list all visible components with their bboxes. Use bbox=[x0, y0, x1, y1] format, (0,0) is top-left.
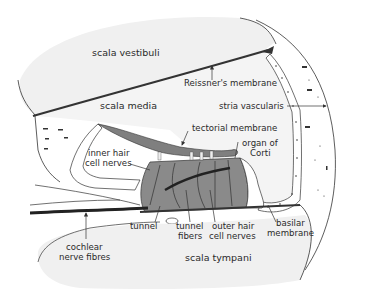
label-tunnel-fibers-line1: tunnel bbox=[176, 221, 203, 231]
label-basilar-line1: basilar bbox=[276, 218, 305, 228]
label-organ-of-corti-line1: organ of bbox=[242, 138, 278, 148]
label-tectorial-membrane: tectorial membrane bbox=[192, 123, 277, 133]
label-inner-hair-line2: cell nerves bbox=[85, 158, 132, 168]
label-outer-hair-line1: outer hair bbox=[212, 221, 254, 231]
label-stria-vascularis: stria vascularis bbox=[219, 101, 284, 111]
label-basilar-line2: membrane bbox=[267, 228, 314, 238]
label-tunnel-fibers-line2: fibers bbox=[178, 231, 202, 241]
label-scala-vestibuli: scala vestibuli bbox=[92, 48, 160, 58]
label-scala-media: scala media bbox=[100, 101, 157, 111]
label-inner-hair-line1: inner hair bbox=[88, 148, 129, 158]
label-scala-tympani: scala tympani bbox=[185, 253, 252, 263]
label-reissners-membrane: Reissner's membrane bbox=[184, 78, 277, 88]
cochlea-diagram bbox=[0, 0, 366, 302]
label-cochlear-line1: cochlear bbox=[66, 242, 103, 252]
label-outer-hair-line2: cell nerves bbox=[209, 231, 256, 241]
label-tunnel: tunnel bbox=[130, 221, 157, 231]
cochlear-nerve-fibres bbox=[30, 208, 148, 213]
label-cochlear-line2: nerve fibres bbox=[59, 252, 110, 262]
label-organ-of-corti-line2: Corti bbox=[250, 148, 271, 158]
